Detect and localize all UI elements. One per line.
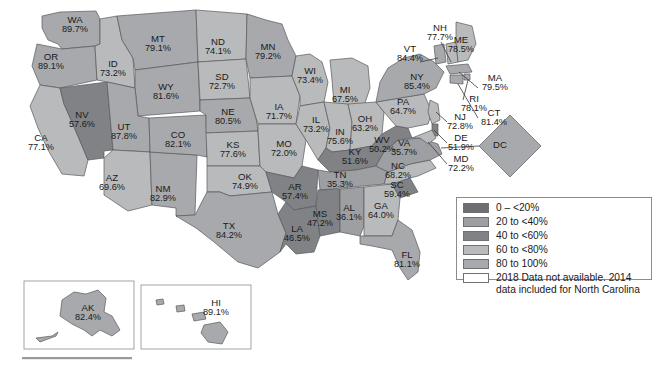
state-abbr-ks: KS [227, 139, 240, 150]
state-abbr-dc: DC [493, 139, 507, 150]
state-value-ct: 81.4% [481, 117, 507, 127]
state-abbr-hi: HI [211, 297, 221, 308]
state-abbr-ut: UT [118, 121, 131, 132]
state-abbr-oh: OH [358, 113, 372, 124]
legend-label-no-data: 2018 Data not available. 2014 data inclu… [496, 272, 646, 296]
state-label-vt: VT84.4% [397, 43, 423, 64]
state-value-oh: 63.2% [352, 123, 378, 133]
state-value-nv: 57.6% [69, 119, 95, 129]
state-abbr-ia: IA [274, 101, 284, 112]
state-abbr-in: IN [335, 126, 345, 137]
legend-swatch-0-20 [463, 203, 489, 213]
state-value-nc: 68.2% [385, 170, 411, 180]
state-abbr-mt: MT [151, 33, 165, 44]
us-map-svg: WA89.7%OR89.1%CA77.1%NV57.6%ID73.2%MT79.… [0, 0, 656, 367]
state-value-nm: 82.9% [150, 193, 176, 203]
state-value-wa: 89.7% [62, 24, 88, 34]
legend-swatch-no-data [463, 273, 489, 283]
state-value-id: 73.2% [100, 68, 126, 78]
state-abbr-tn: TN [334, 169, 347, 180]
legend-swatch-20-40 [463, 217, 489, 227]
state-abbr-ar: AR [288, 181, 301, 192]
state-value-sd: 72.7% [209, 81, 235, 91]
state-abbr-va: VA [398, 137, 411, 148]
state-abbr-fl: FL [401, 249, 413, 260]
state-abbr-ne: NE [221, 106, 234, 117]
state-value-ok: 74.9% [232, 181, 258, 191]
state-value-pa: 64.7% [390, 106, 416, 116]
state-value-ms: 47.2% [307, 218, 333, 228]
state-value-nh: 77.7% [427, 32, 453, 42]
state-value-ga: 64.0% [368, 210, 394, 220]
legend-row-no-data: 2018 Data not available. 2014 data inclu… [463, 272, 646, 296]
state-abbr-tx: TX [223, 220, 236, 231]
state-abbr-me: ME [454, 34, 468, 45]
state-abbr-wv: WV [374, 134, 390, 145]
legend-row-bin-3: 40 to <60% [463, 230, 646, 243]
legend-swatch-80-100 [463, 259, 489, 269]
legend-label-0-20: 0 – <20% [496, 202, 539, 214]
state-value-ny: 85.4% [404, 81, 430, 91]
state-abbr-sd: SD [215, 71, 228, 82]
state-value-mo: 72.0% [271, 148, 297, 158]
hawaii-island-oahu[interactable] [176, 305, 185, 312]
state-abbr-ky: KY [349, 146, 362, 157]
state-label-ma: MA79.5% [482, 72, 508, 93]
state-abbr-ms: MS [313, 208, 327, 219]
state-label-de: DE51.9% [448, 132, 474, 153]
legend-row-bin-4: 60 to <80% [463, 244, 646, 257]
state-value-mt: 79.1% [145, 43, 171, 53]
state-shape-nj[interactable] [428, 100, 440, 124]
state-abbr-de: DE [454, 132, 467, 143]
state-value-md: 72.2% [448, 163, 474, 173]
state-value-nd: 74.1% [205, 46, 231, 56]
state-shape-ct[interactable] [450, 75, 463, 84]
state-abbr-ok: OK [238, 171, 252, 182]
state-value-al: 36.1% [336, 212, 362, 222]
state-abbr-pa: PA [397, 96, 410, 107]
legend-row-bin-5: 80 to 100% [463, 258, 646, 271]
state-value-az: 69.6% [99, 182, 125, 192]
state-value-ma: 79.5% [482, 82, 508, 92]
state-abbr-il: IL [312, 114, 321, 125]
state-value-tn: 35.3% [327, 179, 353, 189]
state-value-ks: 77.6% [220, 149, 246, 159]
state-abbr-nv: NV [75, 109, 89, 120]
state-value-mi: 67.5% [332, 94, 358, 104]
state-abbr-nj: NJ [454, 111, 466, 122]
state-abbr-ri: RI [469, 93, 479, 104]
state-value-ar: 57.4% [282, 191, 308, 201]
state-label-dc: DC [493, 139, 507, 150]
state-abbr-co: CO [171, 129, 185, 140]
state-value-me: 78.5% [448, 44, 474, 54]
state-abbr-wy: WY [158, 81, 174, 92]
state-abbr-ga: GA [374, 200, 388, 211]
state-value-de: 51.9% [448, 142, 474, 152]
state-abbr-ny: NY [410, 71, 424, 82]
map-legend: 0 – <20% 20 to <40% 40 to <60% 60 to <80… [456, 197, 652, 280]
legend-label-80-100: 80 to 100% [496, 258, 548, 270]
state-abbr-nh: NH [433, 22, 447, 33]
state-value-fl: 81.1% [394, 259, 420, 269]
us-choropleth-map-figure: WA89.7%OR89.1%CA77.1%NV57.6%ID73.2%MT79.… [0, 0, 656, 367]
state-abbr-nd: ND [211, 36, 225, 47]
legend-row-bin-1: 0 – <20% [463, 202, 646, 215]
state-abbr-ma: MA [488, 72, 503, 83]
state-abbr-mi: MI [340, 84, 351, 95]
state-value-ia: 71.7% [266, 111, 292, 121]
state-value-wy: 81.6% [153, 91, 179, 101]
state-value-or: 89.1% [38, 61, 64, 71]
state-value-mn: 79.2% [255, 51, 281, 61]
legend-row-bin-2: 20 to <40% [463, 216, 646, 229]
state-abbr-mo: MO [276, 138, 291, 149]
state-value-co: 82.1% [165, 139, 191, 149]
legend-label-40-60: 40 to <60% [496, 230, 548, 242]
state-abbr-wi: WI [304, 65, 316, 76]
state-abbr-md: MD [454, 153, 469, 164]
state-abbr-or: OR [44, 51, 58, 62]
hawaii-island-kauai[interactable] [156, 299, 164, 305]
state-abbr-la: LA [291, 223, 303, 234]
state-shape-vt[interactable] [434, 44, 446, 64]
state-value-nj: 72.8% [447, 121, 473, 131]
legend-swatch-40-60 [463, 231, 489, 241]
